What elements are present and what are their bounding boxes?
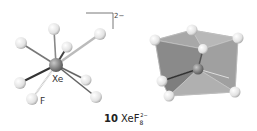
figure-caption: 10 XeF82− xyxy=(104,112,148,126)
figure-number: 10 xyxy=(104,113,118,124)
ball-and-stick-model xyxy=(14,23,106,105)
f-label: F xyxy=(40,96,45,106)
xe-label: Xe xyxy=(52,74,63,84)
formula-subscript: 8 xyxy=(139,119,143,126)
polyhedron-model xyxy=(150,25,244,102)
formula: XeF xyxy=(121,113,139,124)
formula-superscript: 2− xyxy=(140,112,147,118)
charge-bracket xyxy=(86,13,113,29)
charge-label: 2− xyxy=(114,12,124,20)
